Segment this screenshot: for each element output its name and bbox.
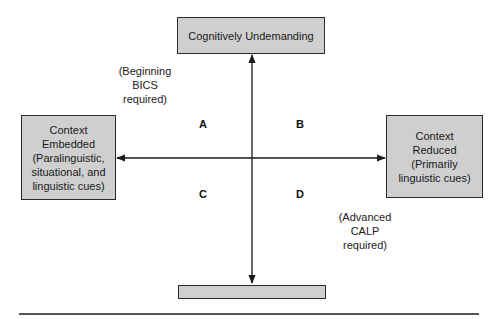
quadrant-d-label: D (296, 188, 304, 200)
quadrant-b-label: B (296, 118, 304, 130)
quadrant-a-label: A (199, 118, 207, 130)
calp-note-line3: required) (330, 238, 400, 252)
right-box-line2: Reduced (398, 143, 470, 157)
advanced-calp-note: (Advanced CALP required) (330, 210, 400, 252)
left-box-line1: Context (32, 123, 106, 137)
context-embedded-box: Context Embedded (Paralinguistic, situat… (21, 115, 116, 200)
left-box-line4: situational, and (32, 165, 106, 179)
beginning-bics-note: (Beginning BICS required) (110, 64, 180, 106)
bics-note-line3: required) (110, 92, 180, 106)
left-box-line3: (Paralinguistic, (32, 151, 106, 165)
left-box-line2: Embedded (32, 137, 106, 151)
right-box-line3: (Primarily (398, 157, 470, 171)
quadrant-c-label: C (199, 188, 207, 200)
bics-note-line2: BICS (110, 78, 180, 92)
right-box-line4: linguistic cues) (398, 171, 470, 185)
right-box-line1: Context (398, 129, 470, 143)
context-reduced-box: Context Reduced (Primarily linguistic cu… (386, 115, 483, 198)
bics-note-line1: (Beginning (110, 64, 180, 78)
left-box-line5: linguistic cues) (32, 179, 106, 193)
calp-note-line1: (Advanced (330, 210, 400, 224)
bottom-rule (19, 313, 479, 315)
cognitively-demanding-box-body (178, 285, 326, 299)
calp-note-line2: CALP (330, 224, 400, 238)
top-box-label: Cognitively Undemanding (188, 29, 313, 43)
cognitively-undemanding-box: Cognitively Undemanding (177, 17, 325, 54)
